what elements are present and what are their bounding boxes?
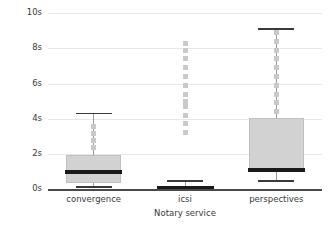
- whisker-cap-upper: [167, 180, 203, 182]
- outlier-marker: [91, 138, 96, 143]
- y-gridline: [48, 13, 322, 14]
- outlier-marker: [274, 65, 279, 70]
- x-tick-label-perspectives: perspectives: [249, 194, 303, 204]
- outlier-marker: [274, 109, 279, 114]
- outlier-marker: [183, 92, 188, 97]
- outlier-marker: [183, 121, 188, 126]
- outlier-marker: [274, 39, 279, 44]
- whisker-cap-lower: [258, 180, 294, 182]
- outlier-marker: [274, 48, 279, 53]
- outlier-marker: [183, 65, 188, 70]
- outlier-marker: [183, 41, 188, 46]
- boxplot-figure: Response Time in seconds 0s2s4s6s8s10s N…: [0, 0, 335, 229]
- y-tick-label: 4s: [6, 113, 42, 123]
- whisker-cap-lower: [76, 186, 112, 188]
- y-tick-label: 8s: [6, 42, 42, 52]
- outlier-marker: [91, 124, 96, 129]
- outlier-marker: [274, 83, 279, 88]
- outlier-marker: [183, 113, 188, 118]
- y-tick-label: 10s: [6, 7, 42, 17]
- y-tick-label: 2s: [6, 148, 42, 158]
- outlier-marker: [183, 99, 188, 104]
- outlier-marker: [274, 100, 279, 105]
- outlier-marker: [183, 48, 188, 53]
- outlier-marker: [183, 130, 188, 135]
- box: [66, 155, 121, 183]
- plot-area: 0s2s4s6s8s10s: [48, 8, 322, 189]
- y-tick-label: 0s: [6, 183, 42, 193]
- median-line: [248, 168, 305, 172]
- outlier-marker: [274, 92, 279, 97]
- outlier-marker: [183, 104, 188, 109]
- x-tick-label-icsi: icsi: [178, 194, 192, 204]
- x-tick-label-convergence: convergence: [66, 194, 121, 204]
- outlier-marker: [274, 56, 279, 61]
- box: [249, 118, 304, 172]
- outlier-marker: [274, 74, 279, 79]
- outlier-marker: [91, 131, 96, 136]
- outlier-marker: [183, 83, 188, 88]
- whisker-cap-upper: [76, 113, 112, 115]
- outlier-marker: [183, 74, 188, 79]
- x-axis-title: Notary service: [48, 208, 322, 218]
- median-line: [65, 170, 122, 174]
- outlier-marker: [183, 56, 188, 61]
- y-tick-label: 6s: [6, 78, 42, 88]
- outlier-marker: [91, 145, 96, 150]
- outlier-marker: [274, 30, 279, 35]
- x-axis-spine: [48, 189, 322, 191]
- whisker-cap-upper: [258, 28, 294, 30]
